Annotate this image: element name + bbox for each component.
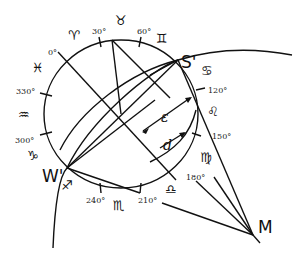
capricorn-icon: ♑ — [27, 148, 39, 163]
line-180b-m — [214, 177, 253, 235]
scorpio-icon: ♏ — [113, 198, 125, 213]
label-240deg: 240° — [86, 196, 105, 205]
virgo-icon: ♍ — [200, 150, 212, 165]
label-0deg: 0° — [48, 48, 57, 57]
label-150deg: 150° — [212, 132, 231, 141]
libra-icon: ♎ — [165, 182, 177, 197]
line-wprime-210 — [67, 168, 140, 193]
angle-epsilon: ε — [161, 109, 169, 125]
tick-120 — [196, 88, 205, 90]
tick-210 — [140, 183, 141, 193]
label-330deg: 330° — [16, 87, 35, 96]
label-120deg: 120° — [208, 86, 227, 95]
point-m: M — [258, 217, 273, 237]
zodiac-diagram: 0° 30° 60° 120° 150° 180° 210° 240° 300°… — [0, 0, 308, 261]
label-300deg: 300° — [15, 136, 34, 145]
cancer-icon: ♋ — [201, 63, 213, 78]
line-210-m — [162, 203, 253, 235]
label-60deg: 60° — [137, 27, 151, 36]
gemini-icon: ♊ — [156, 31, 168, 46]
tick-30 — [99, 37, 101, 47]
taurus-icon: ♉ — [115, 13, 127, 28]
angle-d: d — [163, 137, 172, 153]
point-w-prime: W' — [42, 166, 63, 186]
aries-icon: ♈ — [68, 28, 80, 43]
tick-240 — [100, 183, 101, 193]
point-s-prime: S' — [181, 52, 196, 72]
line-180-m — [196, 181, 253, 235]
aquarius-icon: ♒ — [18, 107, 30, 122]
label-180deg: 180° — [186, 173, 205, 182]
label-210deg: 210° — [138, 196, 157, 205]
label-30deg: 30° — [92, 27, 106, 36]
diagram-canvas: 0° 30° 60° 120° 150° 180° 210° 240° 300°… — [0, 0, 308, 261]
pisces-icon: ♓ — [32, 60, 44, 75]
great-circle-arc — [53, 50, 292, 248]
tick-60 — [139, 37, 141, 47]
inner-arc-lower — [150, 110, 196, 162]
tick-150 — [192, 133, 201, 136]
leo-icon: ♌ — [207, 104, 219, 119]
